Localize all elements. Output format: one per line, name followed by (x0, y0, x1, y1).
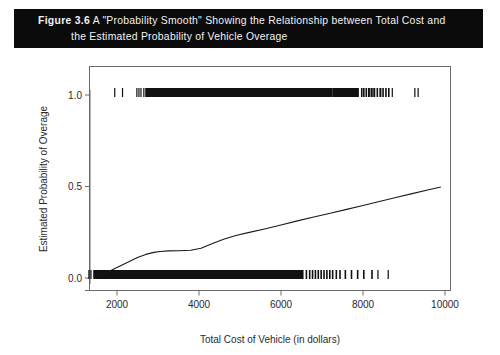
rug-mark (371, 270, 373, 279)
caption-line-2: the Estimated Probability of Vehicle Ove… (38, 29, 474, 45)
rug-mark (309, 270, 311, 279)
rug-mark (323, 270, 325, 279)
x-axis-tick-label: 6000 (270, 299, 293, 310)
rug-mark (90, 270, 91, 279)
rug-mark (374, 88, 376, 97)
x-axis-tick-label: 8000 (352, 299, 375, 310)
rug-mark (414, 88, 415, 97)
rug-mark (371, 88, 373, 97)
y-axis-tick-label: 0.5 (68, 181, 82, 192)
y-axis-tick-label: 1.0 (68, 90, 82, 101)
rug-mark (351, 270, 353, 279)
caption-line-1: Figure 3.6 A "Probability Smooth" Showin… (38, 13, 474, 29)
plot-area: 0.00.51.0 200040006000800010000 Estimate… (0, 55, 500, 355)
rug-mark (136, 88, 137, 97)
x-axis-tick-label: 10000 (431, 299, 459, 310)
rug-mark (388, 88, 390, 97)
rug-mark (315, 270, 317, 279)
rug-mark (363, 88, 365, 97)
rug-mark (339, 270, 341, 279)
rug-mark (369, 88, 370, 97)
figure-container: Figure 3.6 A "Probability Smooth" Showin… (0, 0, 500, 355)
rug-marks-top (114, 88, 419, 97)
figure-caption-bar: Figure 3.6 A "Probability Smooth" Showin… (14, 9, 483, 48)
rug-band (146, 88, 333, 97)
rug-marks-bottom (88, 270, 389, 279)
rug-mark (122, 88, 123, 97)
x-axis-title: Total Cost of Vehicle (in dollars) (200, 334, 340, 345)
rug-band (93, 270, 303, 279)
rug-mark (382, 88, 384, 97)
y-axis-tick-label: 0.0 (68, 273, 82, 284)
rug-mark (345, 270, 347, 279)
rug-mark (138, 88, 139, 97)
rug-mark (363, 270, 365, 279)
rug-mark (388, 270, 389, 279)
rug-mark (114, 88, 115, 97)
rug-mark (357, 270, 359, 279)
rug-mark (361, 88, 363, 97)
rug-mark (317, 270, 319, 279)
rug-mark (88, 270, 89, 279)
probability-smooth-line (96, 187, 441, 276)
rug-mark (365, 88, 367, 97)
rug-mark (418, 88, 419, 97)
rug-mark (320, 270, 322, 279)
x-axis: 200040006000800010000 (85, 291, 459, 310)
rug-mark (306, 270, 308, 279)
plot-frame (90, 67, 451, 291)
rug-mark (329, 270, 331, 279)
rug-mark (332, 270, 334, 279)
y-axis-title: Estimated Probability of Overage (38, 105, 49, 252)
rug-mark (372, 88, 373, 97)
rug-mark (145, 88, 146, 97)
x-axis-tick-label: 4000 (188, 299, 211, 310)
scatter-rug-plot: 0.00.51.0 200040006000800010000 Estimate… (0, 55, 500, 355)
y-axis: 0.00.51.0 (68, 90, 90, 284)
figure-number-label: Figure 3.6 (38, 15, 90, 26)
rug-mark (377, 88, 379, 97)
rug-band (332, 88, 359, 97)
rug-mark (392, 88, 393, 97)
x-axis-tick-label: 2000 (106, 299, 129, 310)
rug-mark (336, 270, 338, 279)
rug-mark (326, 270, 328, 279)
rug-mark (380, 88, 381, 97)
caption-line-1-text: A "Probability Smooth" Showing the Relat… (93, 15, 446, 26)
figure-caption-text: Figure 3.6 A "Probability Smooth" Showin… (38, 13, 474, 44)
rug-mark (140, 88, 141, 97)
rug-mark (377, 270, 378, 279)
rug-mark (312, 270, 314, 279)
rug-mark (385, 88, 387, 97)
caption-line-2-text: the Estimated Probability of Vehicle Ove… (71, 31, 288, 42)
rug-mark (143, 88, 144, 97)
